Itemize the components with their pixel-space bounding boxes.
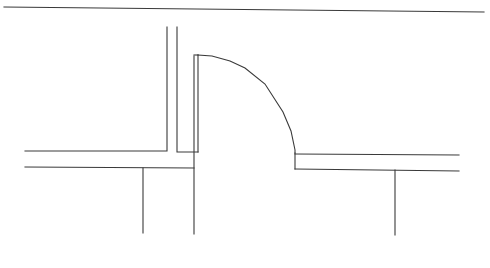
right-wall-upper-line: [295, 154, 459, 155]
plan-svg: [0, 0, 490, 268]
right-wall-lower-line: [295, 169, 459, 171]
door-jamb-line: [177, 27, 198, 152]
door-swing-arc: [198, 55, 295, 153]
door-plan-diagram: [0, 0, 490, 268]
left-wall-upper-line: [25, 27, 167, 151]
left-wall-lower-line: [25, 167, 194, 168]
top-boundary-line: [4, 7, 484, 12]
